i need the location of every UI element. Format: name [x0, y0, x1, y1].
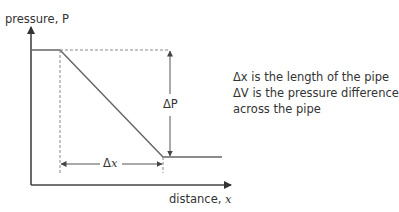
delta-x-symbol: Δ: [103, 156, 111, 170]
note-line-1-text: is the length of the pipe: [248, 70, 389, 84]
note-line-2: ΔV is the pressure difference: [233, 85, 399, 101]
delta-p-label: ΔP: [163, 99, 178, 111]
y-axis-label: pressure, P: [5, 14, 69, 26]
x-axis-label-text: distance,: [169, 192, 225, 206]
delta-x-label: Δx: [103, 158, 117, 170]
explanation-notes: Δx is the length of the pipe ΔV is the p…: [233, 69, 399, 117]
x-axis-label: distance, x: [169, 194, 232, 206]
note-line-3: across the pipe: [233, 101, 399, 117]
note-line-1-symbol: Δx: [233, 70, 248, 84]
x-axis-label-var: x: [225, 192, 232, 206]
note-line-1: Δx is the length of the pipe: [233, 69, 399, 85]
delta-x-var: x: [111, 156, 118, 170]
